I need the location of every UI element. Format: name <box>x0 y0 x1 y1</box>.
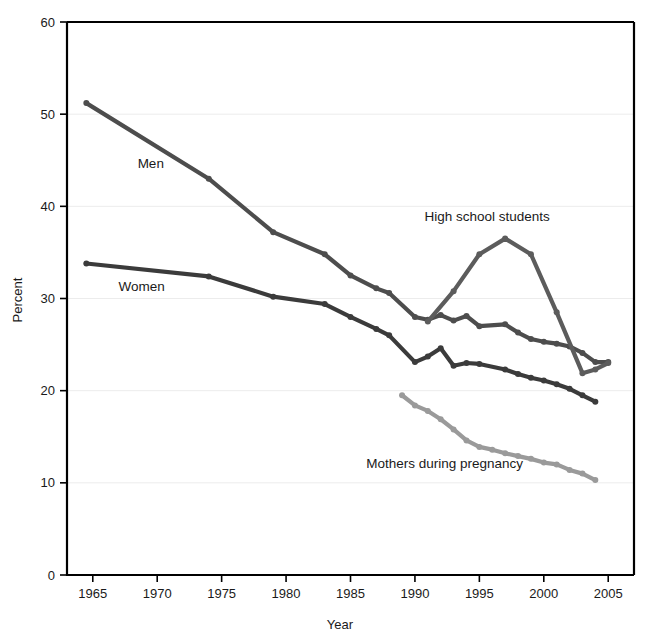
x-tick-label: 2005 <box>594 586 623 601</box>
data-point <box>592 366 598 372</box>
y-tick-label: 50 <box>41 107 55 122</box>
data-point <box>567 386 573 392</box>
data-point <box>373 285 379 291</box>
data-point <box>528 251 534 257</box>
x-tick-label: 1965 <box>78 586 107 601</box>
chart-background <box>0 0 652 644</box>
y-tick-label: 60 <box>41 15 55 30</box>
data-point <box>605 360 611 366</box>
data-point <box>502 321 508 327</box>
data-point <box>270 229 276 235</box>
data-point <box>554 341 560 347</box>
data-point <box>438 345 444 351</box>
data-point <box>541 339 547 345</box>
data-point <box>476 323 482 329</box>
smoking-prevalence-line-chart: 0102030405060 19651970197519801985199019… <box>0 0 652 644</box>
x-tick-label: 2000 <box>529 586 558 601</box>
data-point <box>579 392 585 398</box>
y-tick-label: 30 <box>41 291 55 306</box>
data-point <box>348 272 354 278</box>
data-point <box>554 309 560 315</box>
data-point <box>386 290 392 296</box>
data-point <box>579 350 585 356</box>
data-point <box>83 100 89 106</box>
data-point <box>515 330 521 336</box>
data-point <box>476 361 482 367</box>
data-point <box>528 375 534 381</box>
data-point <box>463 313 469 319</box>
data-point <box>528 336 534 342</box>
y-tick-label: 40 <box>41 199 55 214</box>
x-axis-tick-labels: 196519701975198019851990199520002005 <box>78 586 622 601</box>
data-point <box>451 318 457 324</box>
data-point <box>438 312 444 318</box>
data-point <box>412 359 418 365</box>
data-point <box>554 381 560 387</box>
data-point <box>425 319 431 325</box>
y-axis-title: Percent <box>10 277 25 322</box>
data-point <box>451 426 457 432</box>
data-point <box>83 260 89 266</box>
data-point <box>386 332 392 338</box>
data-point <box>476 251 482 257</box>
data-point <box>592 399 598 405</box>
data-point <box>322 301 328 307</box>
data-point <box>451 363 457 369</box>
data-point <box>206 273 212 279</box>
data-point <box>463 360 469 366</box>
data-point <box>489 447 495 453</box>
data-point <box>399 392 405 398</box>
data-point <box>412 314 418 320</box>
x-tick-label: 1980 <box>272 586 301 601</box>
data-point <box>541 378 547 384</box>
series-label-women: Women <box>119 279 165 294</box>
data-point <box>579 471 585 477</box>
x-tick-label: 1990 <box>400 586 429 601</box>
series-label-high-school-students: High school students <box>424 209 550 224</box>
data-point <box>579 370 585 376</box>
data-point <box>206 176 212 182</box>
data-point <box>348 314 354 320</box>
y-tick-label: 20 <box>41 383 55 398</box>
data-point <box>541 460 547 466</box>
data-point <box>567 467 573 473</box>
data-point <box>425 354 431 360</box>
data-point <box>438 416 444 422</box>
data-point <box>463 437 469 443</box>
data-point <box>373 326 379 332</box>
data-point <box>322 251 328 257</box>
data-point <box>270 294 276 300</box>
x-tick-label: 1985 <box>336 586 365 601</box>
data-point <box>412 402 418 408</box>
data-point <box>515 371 521 377</box>
data-point <box>451 288 457 294</box>
data-point <box>425 408 431 414</box>
x-tick-label: 1975 <box>207 586 236 601</box>
data-point <box>592 477 598 483</box>
series-label-men: Men <box>138 156 164 171</box>
y-tick-label: 10 <box>41 475 55 490</box>
data-point <box>502 236 508 242</box>
data-point <box>502 366 508 372</box>
data-point <box>592 359 598 365</box>
series-label-mothers-during-pregnancy: Mothers during pregnancy <box>366 456 523 471</box>
x-tick-label: 1970 <box>143 586 172 601</box>
data-point <box>476 444 482 450</box>
y-tick-label: 0 <box>48 568 55 583</box>
chart-container: 0102030405060 19651970197519801985199019… <box>0 0 652 644</box>
x-tick-label: 1995 <box>465 586 494 601</box>
data-point <box>528 456 534 462</box>
data-point <box>554 461 560 467</box>
x-axis-title: Year <box>327 617 354 632</box>
